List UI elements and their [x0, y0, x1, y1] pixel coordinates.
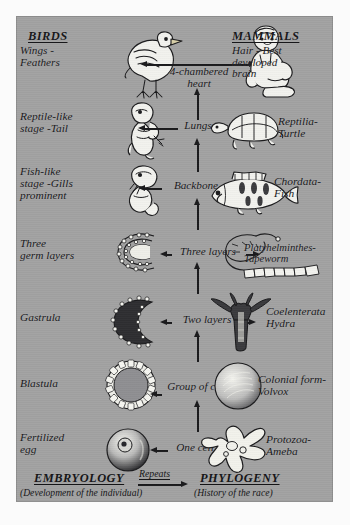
footer-middle-label: Repeats: [139, 468, 170, 479]
turtle-icon: [206, 108, 284, 152]
arrow-head-left-threelayers: [160, 251, 167, 257]
row-egg-right-label: Protozoa- Ameba: [266, 434, 336, 458]
diagram-panel: BIRDS Wings - Feathers: [16, 16, 333, 502]
arrow-head-left-lungs: [138, 125, 145, 131]
arrow-head-up-6: [194, 400, 200, 407]
arrow-head-left-twolayers: [160, 319, 167, 325]
footer-right-subtitle: (History of the race): [194, 487, 344, 498]
arrow-line-vertical-3: [197, 204, 199, 230]
row-birds-heading: BIRDS: [28, 30, 120, 43]
arrow-head-up-2: [194, 138, 200, 145]
arrow-head-right-repeats: [181, 481, 188, 487]
arrow-head-left-backbone: [138, 185, 145, 191]
row-mammals-heading: MAMMALS: [232, 30, 332, 43]
volvox-icon: [212, 360, 264, 412]
footer-left-title: EMBRYOLOGY: [34, 471, 124, 486]
fertilized-egg-icon: [104, 426, 152, 474]
arrow-head-up-1: [194, 88, 200, 95]
blastula-icon: [104, 358, 158, 412]
row-reptile-right-label: Reptilia- Turtle: [278, 116, 338, 140]
row-gastrula-left-label: Gastrula: [20, 312, 100, 324]
arrow-line-vertical-2: [197, 144, 199, 172]
arrow-head-up-5: [194, 330, 200, 337]
row-fish-left-label: Fish-like stage -Gills prominent: [20, 166, 128, 202]
arrow-line-repeats: [138, 484, 182, 486]
diagram-root: BIRDS Wings - Feathers: [0, 0, 350, 525]
row-three-layers-left-label: Three germ layers: [20, 238, 124, 262]
arrow-head-up-4: [194, 262, 200, 269]
footer-right-title: PHYLOGENY: [200, 471, 280, 486]
row-three-layers-right-label: Platyhelminthes- Tapeworm: [244, 242, 336, 264]
row-blastula-left-label: Blastula: [20, 378, 100, 390]
arrow-line-vertical-5: [197, 336, 199, 362]
row-gastrula-right-label: Coelenterata Hydra: [266, 306, 336, 330]
row-fish-right-label: Chordata- Fish: [274, 176, 338, 200]
row-blastula-right-label: Colonial form- Volvox: [258, 374, 336, 398]
reptile-embryo-icon: [118, 100, 170, 162]
arrow-head-up-3: [194, 198, 200, 205]
arrow-line-vertical-1: [197, 94, 199, 120]
row-mammals-subtitle: Hair - Best developed brain: [232, 45, 332, 80]
arrow-line-vertical-4: [197, 268, 199, 294]
row-egg-left-label: Fertilized egg: [20, 432, 106, 456]
row-reptile-left-label: Reptile-like stage -Tail: [20, 111, 125, 135]
hydra-icon: [208, 292, 274, 354]
row-birds-subtitle: Wings - Feathers: [20, 45, 124, 68]
arrow-head-left-onecell: [150, 447, 157, 453]
footer-left-subtitle: (Development of the individual): [20, 487, 196, 498]
